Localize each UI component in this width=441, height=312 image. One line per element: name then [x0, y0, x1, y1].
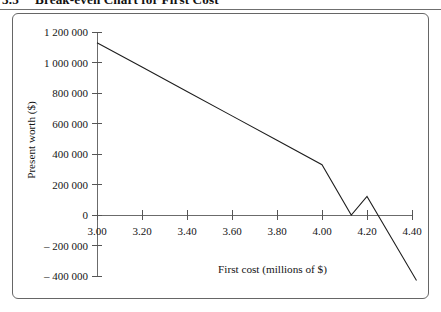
x-tick-label: 4.20 [357, 225, 377, 237]
figure-frame: 1 200 0001 000 000800 000600 000400 0002… [12, 13, 429, 299]
y-tick-label: 1 200 000 [44, 26, 89, 38]
y-tick-label: 200 000 [52, 179, 88, 191]
x-tick-label: 4.00 [312, 225, 332, 237]
x-tick-label: 4.40 [402, 225, 422, 237]
y-tick-label: 600 000 [52, 118, 88, 130]
y-tick-label: 800 000 [52, 87, 88, 99]
y-tick-label: – 400 000 [43, 270, 89, 282]
figure-caption-band: 3.5Break-even Chart for First Cost [0, 0, 441, 9]
y-tick-label: 1 000 000 [44, 57, 89, 69]
x-tick-label: 3.40 [177, 225, 197, 237]
x-tick-label: 3.60 [222, 225, 242, 237]
figure-caption-text: Break-even Chart for First Cost [19, 0, 219, 9]
y-tick-label: 400 000 [52, 148, 88, 160]
x-tick-label: 3.20 [132, 225, 152, 237]
figure-caption: 3.5Break-even Chart for First Cost [0, 0, 441, 9]
y-axis-title: Present worth ($) [25, 101, 38, 179]
x-tick-label: 3.00 [87, 225, 107, 237]
x-tick-label: 3.80 [267, 225, 287, 237]
x-axis-title: First cost (millions of $) [218, 263, 327, 276]
data-series-line [97, 43, 417, 281]
y-tick-label: – 200 000 [43, 240, 89, 252]
figure-number: 3.5 [0, 0, 19, 9]
caption-rule [0, 9, 441, 10]
y-tick-label: 0 [83, 209, 89, 221]
break-even-chart: 1 200 0001 000 000800 000600 000400 0002… [13, 14, 428, 298]
